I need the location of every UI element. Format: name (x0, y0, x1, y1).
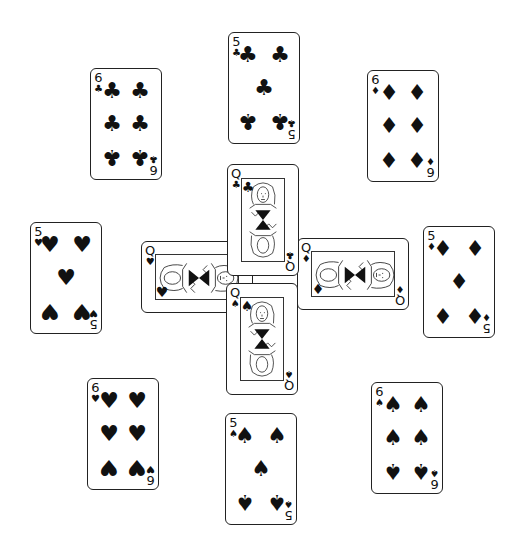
diamonds-icon: ♦ (312, 282, 325, 296)
hearts-icon: ♥ (56, 267, 76, 289)
clubs-icon: ♣ (102, 113, 122, 135)
diamonds-icon: ♦ (433, 238, 453, 260)
playing-card-6-diamonds[interactable]: 6♦6♦♦♦♦♦♦♦ (367, 70, 439, 182)
clubs-icon: ♣ (102, 146, 122, 168)
hearts-icon: ♥ (99, 456, 119, 478)
diamonds-icon: ♦ (449, 271, 469, 293)
spades-icon: ♠ (411, 427, 431, 449)
playing-card-5-clubs-top[interactable]: 5♣5♣♣♣♣♣♣ (228, 32, 300, 144)
queen-portrait-icon (312, 252, 398, 298)
spades-icon: ♠ (231, 299, 240, 309)
clubs-icon: ♣ (254, 77, 274, 99)
hearts-icon: ♥ (127, 390, 147, 412)
clubs-icon: ♣ (130, 146, 150, 168)
hearts-icon: ♥ (146, 464, 155, 474)
clubs-icon: ♣ (242, 180, 255, 194)
card-index-br: Q♣ (285, 250, 295, 273)
card-rank: 6 (149, 164, 157, 177)
playing-card-queen-clubs[interactable]: Q♣Q♣♣ (227, 164, 299, 276)
hearts-icon: ♥ (72, 300, 92, 322)
spades-icon: ♠ (267, 425, 287, 447)
clubs-icon: ♣ (130, 113, 150, 135)
spades-icon: ♠ (241, 299, 254, 313)
card-index-br: Q♠ (284, 369, 294, 392)
diamonds-icon: ♦ (407, 115, 427, 137)
clubs-icon: ♣ (149, 154, 158, 164)
hearts-icon: ♥ (40, 234, 60, 256)
playing-card-5-diamonds[interactable]: 5♦5♦♦♦♦♦♦ (423, 226, 495, 338)
diamonds-icon: ♦ (465, 238, 485, 260)
card-rank: 6 (426, 166, 434, 179)
clubs-icon: ♣ (238, 110, 258, 132)
spades-icon: ♠ (383, 460, 403, 482)
card-index-br: 6♠ (430, 468, 439, 491)
card-index-tl: Q♥ (145, 244, 155, 267)
diamonds-icon: ♦ (407, 148, 427, 170)
hearts-icon: ♥ (99, 423, 119, 445)
clubs-icon: ♣ (102, 80, 122, 102)
hearts-icon: ♥ (146, 257, 155, 267)
playing-card-5-spades[interactable]: 5♠5♠♠♠♠♠♠ (225, 413, 297, 525)
diamonds-icon: ♦ (407, 82, 427, 104)
spades-icon: ♠ (267, 491, 287, 513)
card-rank: 6 (430, 478, 438, 491)
spades-icon: ♠ (430, 468, 439, 478)
playing-card-queen-spades[interactable]: Q♠Q♠♠ (226, 283, 298, 395)
spades-icon: ♠ (235, 425, 255, 447)
hearts-icon: ♥ (99, 390, 119, 412)
diamonds-icon: ♦ (433, 304, 453, 326)
diamonds-icon: ♦ (379, 148, 399, 170)
diamonds-icon: ♦ (379, 82, 399, 104)
playing-card-queen-diamonds[interactable]: Q♦Q♦♦ (297, 238, 409, 310)
card-rank: 6 (146, 474, 154, 487)
card-index-br: 6♥ (146, 464, 155, 487)
playing-card-6-spades[interactable]: 6♠6♠♠♠♠♠♠♠ (371, 382, 443, 494)
spades-icon: ♠ (235, 491, 255, 513)
hearts-icon: ♥ (127, 456, 147, 478)
hearts-icon: ♥ (156, 285, 169, 299)
diamonds-icon: ♦ (379, 115, 399, 137)
spades-icon: ♠ (411, 460, 431, 482)
spades-icon: ♠ (411, 394, 431, 416)
spades-icon: ♠ (383, 394, 403, 416)
card-rank: Q (284, 379, 294, 392)
card-index-tl: Q♠ (230, 286, 240, 309)
clubs-icon: ♣ (270, 110, 290, 132)
spades-icon: ♠ (284, 369, 293, 379)
playing-card-6-hearts[interactable]: 6♥6♥♥♥♥♥♥♥ (87, 378, 159, 490)
playing-card-5-hearts[interactable]: 5♥5♥♥♥♥♥♥ (30, 222, 102, 334)
clubs-icon: ♣ (130, 80, 150, 102)
clubs-icon: ♣ (270, 44, 290, 66)
clubs-icon: ♣ (232, 180, 241, 190)
card-rank: Q (285, 260, 295, 273)
hearts-icon: ♥ (40, 300, 60, 322)
hearts-icon: ♥ (72, 234, 92, 256)
card-index-br: 6♦ (426, 156, 435, 179)
clubs-icon: ♣ (238, 44, 258, 66)
playing-card-6-clubs[interactable]: 6♣6♣♣♣♣♣♣♣ (90, 68, 162, 180)
card-index-br: 6♣ (149, 154, 158, 177)
card-index-tl: Q♦ (301, 241, 311, 264)
spades-icon: ♠ (251, 458, 271, 480)
hearts-icon: ♥ (127, 423, 147, 445)
clubs-icon: ♣ (285, 250, 294, 260)
spades-icon: ♠ (383, 427, 403, 449)
diamonds-icon: ♦ (302, 254, 311, 264)
diamonds-icon: ♦ (426, 156, 435, 166)
diamonds-icon: ♦ (465, 304, 485, 326)
card-index-tl: Q♣ (231, 167, 241, 190)
